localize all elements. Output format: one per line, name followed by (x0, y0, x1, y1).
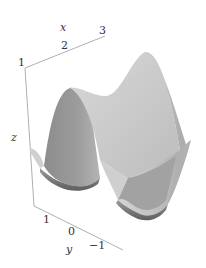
y-tick-neg1: −1 (89, 240, 105, 251)
y-axis-label: y (66, 244, 72, 255)
x-tick-1: 1 (18, 57, 25, 68)
surface-plot (0, 0, 206, 268)
x-tick-3: 3 (99, 25, 106, 36)
y-tick-1: 1 (43, 214, 50, 225)
surface-left-flap (30, 148, 44, 168)
z-axis (25, 68, 34, 206)
y-tick-0: 0 (68, 226, 75, 237)
x-axis-label: x (60, 22, 66, 33)
x-tick-2: 2 (61, 40, 68, 51)
z-axis-label: z (11, 132, 17, 143)
